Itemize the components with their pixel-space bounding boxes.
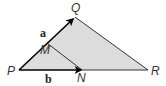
label-vector-b: b	[45, 72, 52, 86]
triangle-pqr-fill	[19, 17, 148, 70]
label-p: P	[7, 64, 15, 78]
label-r: R	[151, 64, 160, 78]
label-n: N	[77, 71, 86, 85]
label-m: M	[40, 43, 50, 57]
diagram-svg: Q P R M N a b	[0, 0, 166, 86]
label-q: Q	[71, 1, 80, 15]
vector-triangle-diagram: Q P R M N a b	[0, 0, 166, 86]
label-vector-a: a	[40, 26, 46, 40]
